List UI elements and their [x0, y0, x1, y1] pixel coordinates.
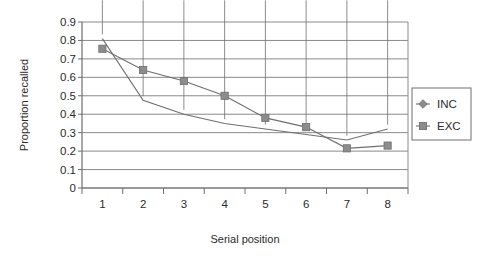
y-tick-label: 0.3 — [60, 127, 76, 139]
y-axis-title: Proportion recalled — [18, 59, 30, 151]
legend-box — [412, 88, 471, 140]
y-tick-label: 0.4 — [60, 108, 77, 120]
legend-label-inc: INC — [437, 98, 457, 110]
data-point-exc — [262, 114, 269, 121]
x-tick-label: 4 — [221, 198, 228, 210]
y-tick-label: 0 — [70, 182, 76, 194]
y-tick-label: 0.7 — [60, 53, 76, 65]
chart-container: 0.90.80.70.60.50.40.30.20.10 12345678 Pr… — [0, 0, 489, 264]
data-point-exc — [384, 142, 391, 149]
x-tick-label: 2 — [140, 198, 146, 210]
data-point-exc — [180, 77, 187, 84]
x-axis-title: Serial position — [210, 233, 279, 245]
data-point-exc — [99, 45, 106, 52]
legend: INCEXC — [412, 88, 471, 140]
y-tick-label: 0.5 — [60, 90, 76, 102]
x-tick-label: 3 — [181, 198, 187, 210]
x-tick-label: 1 — [99, 198, 105, 210]
y-tick-label: 0.8 — [60, 34, 76, 46]
data-point-exc — [221, 92, 228, 99]
data-point-exc — [343, 145, 350, 152]
y-tick-label: 0.6 — [60, 71, 76, 83]
data-point-exc — [303, 124, 310, 131]
data-point-exc — [140, 66, 147, 73]
x-tick-label: 8 — [384, 198, 390, 210]
x-tick-label: 7 — [344, 198, 350, 210]
y-tick-label: 0.9 — [60, 16, 76, 28]
y-tick-label: 0.1 — [60, 164, 76, 176]
square-marker-icon — [419, 122, 426, 129]
x-tick-label: 5 — [262, 198, 268, 210]
legend-label-exc: EXC — [437, 120, 461, 132]
x-tick-label: 6 — [303, 198, 309, 210]
y-tick-label: 0.2 — [60, 145, 76, 157]
serial-position-line-chart: 0.90.80.70.60.50.40.30.20.10 12345678 Pr… — [0, 0, 489, 264]
